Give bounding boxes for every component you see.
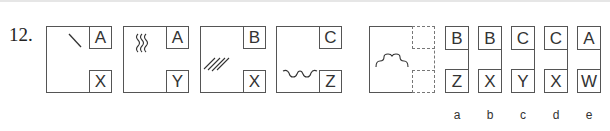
question-number: 12. — [9, 24, 33, 46]
panel-top-label: A — [89, 26, 112, 49]
missing-top-label — [412, 26, 435, 49]
sequence-panel-3: B X — [200, 26, 266, 93]
option-top-label: B — [478, 26, 502, 50]
option-c[interactable]: C Y — [511, 26, 535, 93]
sequence-panel-2: A Y — [123, 26, 189, 93]
panel-top-label: B — [243, 26, 266, 49]
connector-line — [468, 49, 469, 70]
panel-top-label: C — [319, 26, 342, 49]
option-bottom-label: Y — [511, 69, 535, 93]
option-letter-b[interactable]: b — [478, 108, 502, 122]
option-e[interactable]: A W — [577, 26, 601, 93]
connector-line — [534, 49, 535, 70]
option-d[interactable]: C X — [544, 26, 568, 93]
panel-top-label: A — [166, 26, 189, 49]
option-top-label: B — [445, 26, 469, 50]
panel-bottom-label: Y — [166, 70, 189, 93]
connector-line — [600, 49, 601, 70]
sequence-panel-missing — [369, 26, 435, 93]
sequence-panel-1: A X — [46, 26, 112, 93]
top-divider — [0, 0, 610, 2]
option-letter-c[interactable]: c — [511, 108, 535, 122]
option-bottom-label: Z — [445, 69, 469, 93]
option-a[interactable]: B Z — [445, 26, 469, 93]
panel-bottom-label: X — [243, 70, 266, 93]
option-letter-d[interactable]: d — [544, 108, 568, 122]
option-bottom-label: X — [478, 69, 502, 93]
sequence-panel-4: C Z — [276, 26, 342, 93]
panel-bottom-label: X — [89, 70, 112, 93]
missing-bottom-label — [412, 70, 435, 93]
option-top-label: C — [511, 26, 535, 50]
option-bottom-label: X — [544, 69, 568, 93]
connector-line — [501, 49, 502, 70]
option-letter-a[interactable]: a — [445, 108, 469, 122]
option-letter-e[interactable]: e — [577, 108, 601, 122]
connector-line — [567, 49, 568, 70]
option-top-label: C — [544, 26, 568, 50]
option-b[interactable]: B X — [478, 26, 502, 93]
panel-bottom-label: Z — [319, 70, 342, 93]
option-top-label: A — [577, 26, 601, 50]
option-bottom-label: W — [577, 69, 601, 93]
